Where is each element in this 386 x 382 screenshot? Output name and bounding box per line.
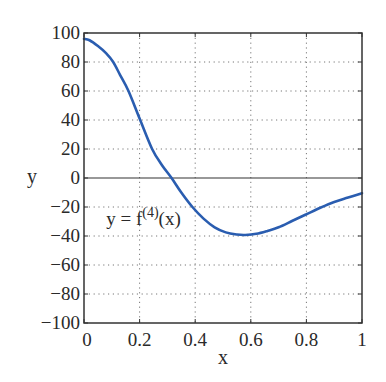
y-tick-label: −80 bbox=[50, 283, 80, 304]
data-curve bbox=[84, 39, 362, 235]
x-tick-label: 0.4 bbox=[183, 329, 207, 350]
y-tick-label: 40 bbox=[61, 109, 80, 130]
x-tick-label: 0.6 bbox=[239, 329, 263, 350]
y-tick-label: 100 bbox=[52, 22, 81, 43]
annotation-tail: (x) bbox=[159, 208, 181, 230]
y-tick-label: −40 bbox=[50, 225, 80, 246]
y-tick-label: 60 bbox=[61, 80, 80, 101]
y-tick-label: 20 bbox=[61, 138, 80, 159]
annotation-main: y = f bbox=[106, 208, 143, 229]
x-axis-label: x bbox=[218, 346, 228, 368]
x-tick-label: 0.2 bbox=[128, 329, 152, 350]
y-tick-label: −20 bbox=[50, 196, 80, 217]
curve-annotation: y = f(4)(x) bbox=[106, 205, 181, 230]
y-tick-label: −100 bbox=[41, 312, 80, 333]
chart: 100806040200−20−40−60−80−100 00.20.40.60… bbox=[0, 0, 386, 382]
y-tick-label: 0 bbox=[71, 167, 81, 188]
x-tick-label: 1 bbox=[357, 329, 367, 350]
annotation-superscript: (4) bbox=[142, 205, 159, 221]
y-tick-labels: 100806040200−20−40−60−80−100 bbox=[41, 22, 80, 333]
y-tick-label: 80 bbox=[61, 51, 80, 72]
x-tick-label: 0 bbox=[82, 329, 92, 350]
y-axis-label: y bbox=[27, 165, 37, 188]
x-tick-label: 0.8 bbox=[295, 329, 319, 350]
y-tick-label: −60 bbox=[50, 254, 80, 275]
